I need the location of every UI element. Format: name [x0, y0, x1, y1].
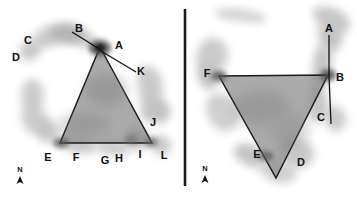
- point-label-h: H: [115, 152, 123, 164]
- point-label-g: G: [101, 154, 110, 166]
- point-label-i: I: [138, 148, 141, 160]
- point-label-b: B: [75, 22, 83, 34]
- vertex-hotspot-g: [124, 135, 138, 145]
- point-label-e-right: E: [253, 148, 260, 160]
- figure-container: B A C D K J E F G H I L N: [0, 0, 357, 199]
- vertex-hotspot-b-right: [320, 69, 336, 81]
- north-arrow-letter-right: N: [202, 164, 207, 173]
- vertex-hotspot-a: [89, 40, 111, 56]
- vertex-hotspot-e: [53, 138, 69, 148]
- point-label-j: J: [150, 116, 156, 128]
- vertex-hotspot-f-right: [211, 71, 227, 81]
- north-arrow-letter: N: [17, 165, 22, 174]
- point-label-a: A: [115, 39, 123, 51]
- point-label-l: L: [161, 149, 168, 161]
- point-label-e: E: [44, 151, 51, 163]
- point-label-f: F: [73, 151, 80, 163]
- point-label-c-right: C: [317, 111, 325, 123]
- vertex-hotspot-i: [144, 137, 158, 147]
- point-label-a-right: A: [325, 22, 333, 34]
- point-label-k: K: [137, 65, 145, 77]
- point-label-d: D: [12, 51, 20, 63]
- point-label-c: C: [24, 34, 32, 46]
- point-label-b-right: B: [336, 71, 344, 83]
- point-label-d-right: D: [297, 156, 305, 168]
- point-label-f-right: F: [204, 67, 211, 79]
- diagram-svg: B A C D K J E F G H I L N: [0, 0, 357, 199]
